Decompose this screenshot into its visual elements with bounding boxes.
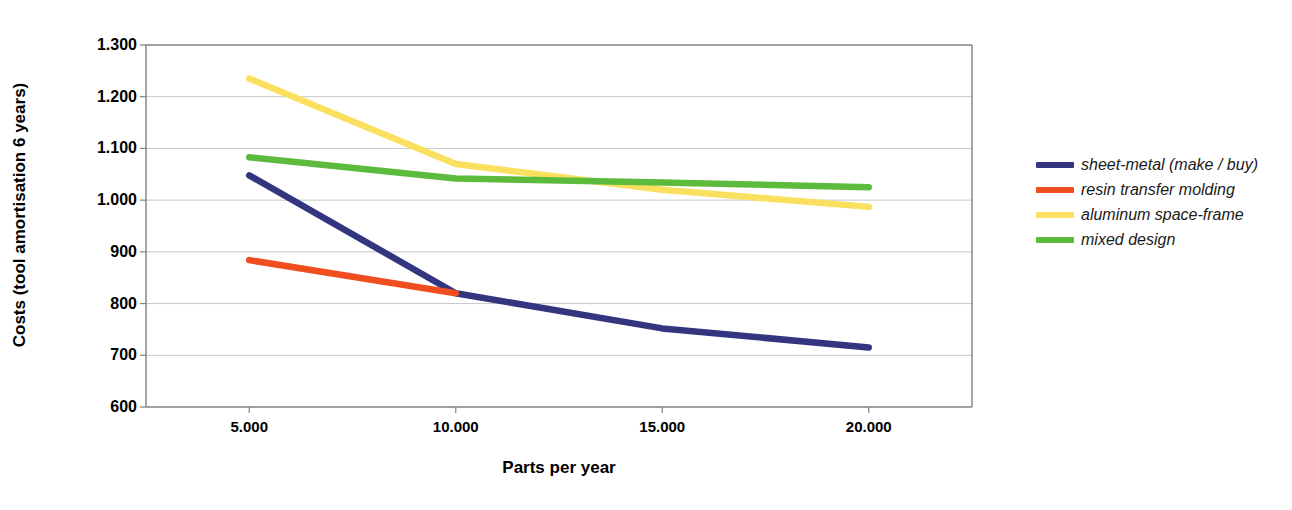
legend-label: sheet-metal (make / buy) (1081, 156, 1258, 174)
legend-item[interactable]: resin transfer molding (1036, 177, 1286, 202)
legend-item[interactable]: sheet-metal (make / buy) (1036, 152, 1286, 177)
chart-container: Costs (tool amortisation 6 years) 1.3001… (0, 0, 1292, 510)
x-tick-label: 20.000 (846, 418, 892, 435)
plot-area (146, 45, 972, 407)
legend-label: resin transfer molding (1081, 181, 1235, 199)
data-series-group (249, 79, 869, 348)
legend-swatch-icon (1036, 187, 1074, 193)
legend-label: aluminum space-frame (1081, 206, 1244, 224)
legend-item[interactable]: aluminum space-frame (1036, 202, 1286, 227)
chart-legend: sheet-metal (make / buy)resin transfer m… (1036, 152, 1286, 252)
x-tick-label: 15.000 (639, 418, 685, 435)
axis-tickmarks (140, 45, 869, 413)
legend-item[interactable]: mixed design (1036, 227, 1286, 252)
x-tick-label: 5.000 (230, 418, 268, 435)
gridlines (146, 45, 972, 407)
x-axis-title: Parts per year (146, 458, 972, 478)
legend-swatch-icon (1036, 162, 1074, 168)
plot-svg (146, 45, 972, 407)
legend-swatch-icon (1036, 212, 1074, 218)
axis-lines (146, 45, 972, 407)
legend-swatch-icon (1036, 237, 1074, 243)
x-tick-label: 10.000 (433, 418, 479, 435)
series-line-3 (249, 157, 869, 187)
legend-label: mixed design (1081, 231, 1175, 249)
